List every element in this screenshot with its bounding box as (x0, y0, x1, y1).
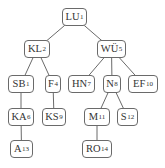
node-index: 2 (43, 46, 47, 53)
tree-node-ef10: EF10 (128, 75, 158, 93)
tree-node-sb1: SB1 (8, 75, 34, 93)
node-index: 1 (80, 14, 84, 21)
node-label: S (121, 112, 127, 123)
node-label: N (106, 79, 114, 90)
node-index: 12 (127, 114, 134, 121)
node-label: SB (13, 79, 26, 90)
node-index: 10 (146, 81, 153, 88)
node-label: KL (28, 44, 42, 55)
tree-node-ks9: KS9 (42, 108, 66, 126)
node-label: RO (86, 144, 101, 155)
tree-node-ka6: KA6 (8, 108, 34, 126)
node-label: KS (45, 112, 58, 123)
tree-node-m11: M11 (84, 108, 110, 126)
tree-node-kl2: KL2 (24, 40, 50, 58)
tree-node-wu5: WÜ5 (97, 40, 126, 58)
tree-node-n8: N8 (103, 75, 121, 93)
node-label: LU (66, 12, 80, 23)
node-index: 11 (99, 114, 106, 121)
node-label: WÜ (101, 44, 119, 55)
node-label: HN (72, 79, 87, 90)
node-index: 8 (114, 81, 118, 88)
node-index: 13 (22, 146, 29, 153)
node-index: 14 (101, 146, 108, 153)
tree-node-a13: A13 (10, 140, 33, 158)
tree-node-ro14: RO14 (82, 140, 112, 158)
node-label: A (14, 144, 22, 155)
node-index: 5 (119, 46, 123, 53)
tree-node-hn7: HN7 (68, 75, 95, 93)
node-label: F (48, 79, 54, 90)
node-index: 4 (54, 81, 58, 88)
node-index: 9 (59, 114, 63, 121)
node-index: 1 (26, 81, 30, 88)
node-label: EF (133, 79, 145, 90)
node-index: 6 (27, 114, 31, 121)
tree-node-lu1: LU1 (62, 8, 87, 26)
node-label: M (89, 112, 98, 123)
tree-node-f4: F4 (45, 75, 61, 93)
node-label: KA (11, 112, 26, 123)
node-index: 7 (88, 81, 92, 88)
tree-node-s12: S12 (117, 108, 138, 126)
